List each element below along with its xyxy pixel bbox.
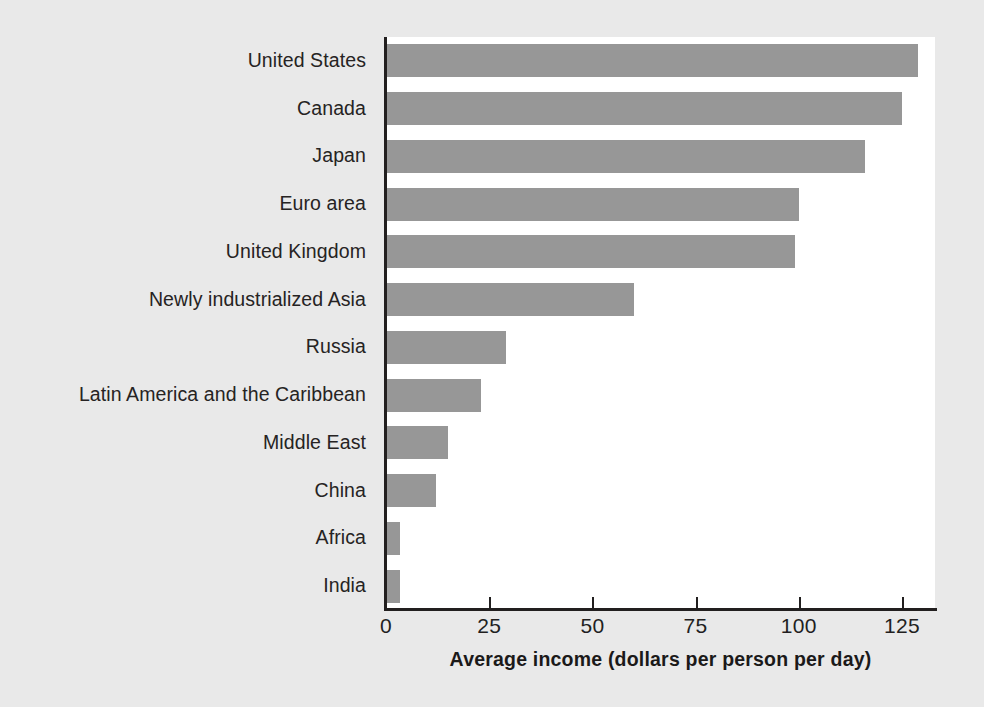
bar <box>386 474 436 507</box>
y-axis-line <box>384 37 387 610</box>
bar <box>386 188 799 221</box>
bar <box>386 379 481 412</box>
bar <box>386 426 448 459</box>
bar <box>386 283 634 316</box>
y-axis-tick-label: Russia <box>0 335 378 358</box>
x-axis-line <box>384 608 937 611</box>
x-axis-title: Average income (dollars per person per d… <box>386 648 935 671</box>
bar <box>386 570 400 603</box>
chart-figure: United StatesCanadaJapanEuro areaUnited … <box>0 0 984 707</box>
y-axis-tick-label: Middle East <box>0 431 378 454</box>
y-axis-tick-label: Latin America and the Caribbean <box>0 383 378 406</box>
x-axis-tick <box>799 597 801 609</box>
y-axis-tick-label: United States <box>0 49 378 72</box>
y-axis-tick-label: Newly industrialized Asia <box>0 288 378 311</box>
bar <box>386 44 918 77</box>
y-axis-tick-label: China <box>0 479 378 502</box>
bar <box>386 140 865 173</box>
bar <box>386 92 902 125</box>
y-axis-tick-label: Euro area <box>0 192 378 215</box>
bar <box>386 235 795 268</box>
x-axis-tick <box>902 597 904 609</box>
bar-series <box>386 37 935 610</box>
x-axis-tick <box>489 597 491 609</box>
x-axis-tick-label: 125 <box>862 614 942 638</box>
bar <box>386 331 506 364</box>
y-axis-tick-label: Africa <box>0 526 378 549</box>
x-axis-tick-label: 75 <box>656 614 736 638</box>
x-axis-tick-label: 50 <box>552 614 632 638</box>
y-axis-tick-label: United Kingdom <box>0 240 378 263</box>
x-axis-tick-label: 0 <box>346 614 426 638</box>
y-axis-tick-label: Canada <box>0 97 378 120</box>
y-axis-category-labels: United StatesCanadaJapanEuro areaUnited … <box>0 37 378 610</box>
y-axis-tick-label: India <box>0 574 378 597</box>
x-axis-tick-label: 25 <box>449 614 529 638</box>
x-axis-tick <box>696 597 698 609</box>
bar <box>386 522 400 555</box>
y-axis-tick-label: Japan <box>0 144 378 167</box>
x-axis-tick <box>592 597 594 609</box>
x-axis-tick-label: 100 <box>759 614 839 638</box>
